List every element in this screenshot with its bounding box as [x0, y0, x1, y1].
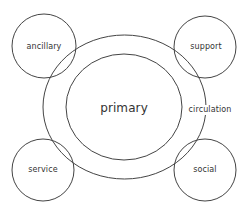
service-label: service — [28, 166, 57, 174]
primary-label: primary — [100, 102, 148, 114]
ancillary-label: ancillary — [27, 43, 62, 51]
social-label: social — [193, 166, 216, 174]
support-label: support — [190, 43, 221, 51]
circulation-label: circulation — [189, 105, 232, 115]
